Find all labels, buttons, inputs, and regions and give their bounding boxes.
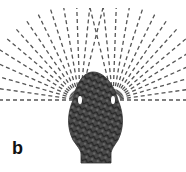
left-eye [78, 96, 82, 104]
ray-line [113, 50, 186, 100]
head-body-shape [69, 72, 123, 163]
ray-line [113, 61, 186, 100]
ray-line [51, 10, 80, 100]
panel-label: b [12, 139, 23, 157]
right-eye [111, 96, 115, 104]
ray-line [113, 29, 177, 100]
ray-line [113, 39, 186, 100]
ray-line [0, 50, 80, 100]
ray-line [0, 87, 80, 100]
ray-line [16, 29, 80, 100]
figure-illustration [0, 0, 186, 172]
ray-line [7, 39, 80, 100]
ray-line [113, 10, 142, 100]
